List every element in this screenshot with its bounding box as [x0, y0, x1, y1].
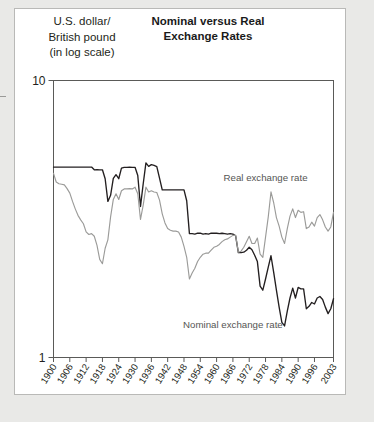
x-tick-label: 1990 [283, 362, 304, 386]
y-tick-label: 10 [32, 74, 46, 88]
series-annotation: Real exchange rate [224, 172, 308, 183]
x-tick-label: 2003 [318, 362, 339, 386]
x-tick-label: 1978 [250, 362, 271, 386]
x-tick-label: 1936 [136, 362, 157, 386]
x-tick-label: 1900 [38, 362, 59, 386]
x-tick-label: 1996 [299, 362, 320, 386]
x-tick-label: 1912 [71, 362, 92, 386]
x-tick-label: 1954 [185, 362, 206, 386]
figure-page: U.S. dollar/ British pound (in log scale… [0, 0, 374, 422]
series-annotation: Nominal exchange rate [183, 319, 283, 330]
plot-frame [54, 81, 334, 358]
x-tick-label: 1972 [234, 362, 255, 386]
x-tick-label: 1960 [201, 362, 222, 386]
series-line-real-exchange-rate [54, 173, 334, 279]
y-tick-label: 1 [39, 351, 46, 365]
x-tick-label: 1924 [103, 362, 124, 386]
x-tick-label: 1906 [54, 362, 75, 386]
chart-plot-area: Real exchange rateNominal exchange rate … [0, 0, 374, 422]
x-tick-label: 1930 [120, 362, 141, 386]
x-tick-label: 1966 [218, 362, 239, 386]
series-line-nominal-exchange-rate [54, 163, 334, 326]
chart-tick-labels: 1011900190619121918192419301936194219481… [32, 74, 339, 386]
exchange-rate-line-chart: Real exchange rateNominal exchange rate … [0, 0, 374, 422]
x-tick-label: 1942 [152, 362, 173, 386]
x-tick-label: 1984 [267, 362, 288, 386]
x-tick-label: 1918 [87, 362, 108, 386]
chart-series [54, 163, 334, 326]
x-tick-label: 1948 [169, 362, 190, 386]
